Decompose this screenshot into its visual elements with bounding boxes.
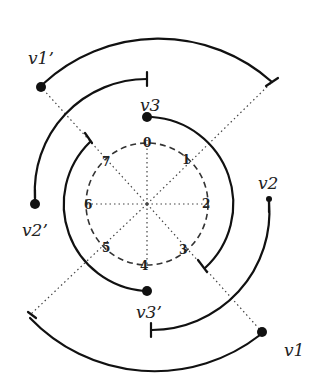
vertex-v2prime-dot <box>30 199 40 209</box>
vertex-v1-dot <box>257 327 267 337</box>
label-v1prime: v1’ <box>28 48 54 68</box>
arc-v3prime-start-tick <box>85 133 92 143</box>
label-v2: v2 <box>258 173 278 193</box>
arc-v1 <box>30 318 260 371</box>
sector-label-3: 3 <box>179 243 187 257</box>
vertex-v1prime-dot <box>36 82 46 92</box>
arc-v1prime <box>43 39 272 84</box>
label-v3prime: v3’ <box>136 302 162 322</box>
vertex-v3prime-dot <box>142 286 152 296</box>
sector-label-7: 7 <box>102 155 110 169</box>
label-v1: v1 <box>284 340 304 360</box>
arc-v2 <box>152 202 269 330</box>
sector-label-5: 5 <box>102 241 110 255</box>
vertex-v2-dot <box>266 196 272 202</box>
sector-label-1: 1 <box>182 153 190 167</box>
label-v2prime: v2’ <box>22 220 48 240</box>
sector-label-6: 6 <box>84 198 92 212</box>
circular-arc-diagram: 0 1 2 3 4 5 6 7 <box>0 0 314 381</box>
sector-label-0: 0 <box>143 136 151 150</box>
label-v3: v3 <box>140 95 160 115</box>
sector-label-4: 4 <box>140 259 148 273</box>
sector-label-2: 2 <box>202 197 210 211</box>
